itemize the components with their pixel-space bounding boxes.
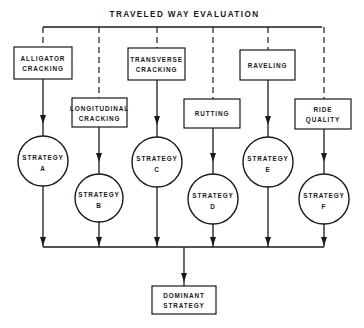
box-outline [128, 48, 185, 80]
arrow-down-icon [154, 116, 160, 125]
box-label-line2: QUALITY [306, 116, 340, 124]
strategy-circle [243, 137, 293, 187]
box-label-line2: CRACKING [22, 65, 64, 72]
distress-box-raveling: RAVELING [240, 50, 295, 80]
arrow-down-icon [321, 153, 327, 162]
arrow-down-icon [210, 153, 216, 162]
strategy-circle [188, 174, 238, 224]
strategy-letter: E [265, 166, 270, 173]
arrow-down-icon [265, 116, 271, 125]
strategy-label: STRATEGY [192, 192, 234, 199]
strategy-label: STRATEGY [78, 191, 120, 198]
arrow-down-icon [210, 237, 216, 246]
arrow-down-icon [96, 237, 102, 246]
strategy-label: STRATEGY [303, 192, 345, 199]
arrow-down-icon [96, 153, 102, 162]
strategy-node-d: STRATEGYD [188, 174, 238, 224]
arrow-down-icon [181, 273, 187, 282]
box-label-line1: ALLIGATOR [21, 55, 66, 62]
arrow-down-icon [265, 237, 271, 246]
dominant-label-line2: STRATEGY [163, 302, 205, 309]
strategy-letter: B [96, 202, 102, 209]
strategy-label: STRATEGY [136, 155, 178, 162]
strategy-circle [18, 136, 68, 186]
distress-box-transverse: TRANSVERSECRACKING [128, 48, 185, 80]
box-label-line1: TRANSVERSE [130, 56, 183, 63]
strategy-circle [299, 174, 349, 224]
arrow-down-icon [154, 237, 160, 246]
arrow-down-icon [40, 115, 46, 124]
box-outline [72, 98, 127, 127]
distress-box-ride-quality: RIDEQUALITY [295, 99, 351, 129]
distress-box-alligator: ALLIGATORCRACKING [14, 47, 72, 79]
arrow-down-icon [321, 237, 327, 246]
box-label-line2: CRACKING [136, 66, 178, 73]
strategy-letter: F [322, 203, 327, 210]
strategy-letter: C [154, 166, 160, 173]
strategy-circle [132, 137, 182, 187]
box-label-line1: LONGITUDINAL [70, 105, 129, 112]
distress-box-longitudinal: LONGITUDINALCRACKING [70, 98, 129, 127]
box-label: RUTTING [195, 110, 230, 117]
box-label-line1: RIDE [314, 106, 333, 113]
strategy-node-b: STRATEGYB [75, 174, 123, 222]
strategy-label: STRATEGY [22, 154, 64, 161]
box-outline [152, 286, 216, 314]
box-label: RAVELING [248, 62, 288, 69]
dominant-label-line1: DOMINANT [163, 292, 205, 299]
distress-box-rutting: RUTTING [184, 99, 240, 128]
strategy-label: STRATEGY [247, 155, 289, 162]
dominant-strategy-box: DOMINANTSTRATEGY [152, 286, 216, 314]
strategy-letter: D [210, 203, 216, 210]
strategy-node-a: STRATEGYA [18, 136, 68, 186]
strategy-circle [75, 174, 123, 222]
traveled-way-evaluation-diagram: ALLIGATORCRACKINGLONGITUDINALCRACKINGTRA… [0, 0, 364, 328]
arrow-down-icon [40, 237, 46, 246]
strategy-letter: A [40, 165, 46, 172]
strategy-node-f: STRATEGYF [299, 174, 349, 224]
diagram-title: TRAVELED WAY EVALUATION [109, 10, 259, 19]
box-label-line2: CRACKING [79, 115, 121, 122]
strategy-node-e: STRATEGYE [243, 137, 293, 187]
strategy-node-c: STRATEGYC [132, 137, 182, 187]
box-outline [295, 99, 351, 129]
box-outline [14, 47, 72, 79]
